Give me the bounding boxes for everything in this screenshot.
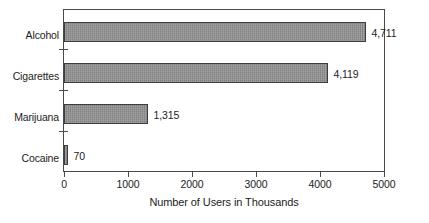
x-axis-tick: [320, 172, 321, 177]
x-axis-tick: [192, 172, 193, 177]
x-axis-tick: [256, 172, 257, 177]
bar-series: [64, 10, 384, 171]
value-label-marijuana: 1,315: [153, 110, 179, 121]
y-axis-label-marijuana: Marijuana: [0, 112, 59, 123]
value-label-cocaine: 70: [73, 151, 84, 162]
bar-alcohol: [64, 22, 366, 42]
bar-chart: Alcohol Cigarettes Marijuana Cocaine 4,7…: [0, 0, 429, 223]
y-axis-labels: Alcohol Cigarettes Marijuana Cocaine: [0, 9, 59, 172]
bar-marijuana: [64, 104, 148, 124]
y-axis-label-cigarettes: Cigarettes: [0, 71, 59, 82]
x-axis-tick-label-0: 0: [61, 178, 67, 190]
x-axis-ticks: [63, 172, 385, 177]
x-axis-tick-label-3000: 3000: [245, 178, 268, 190]
x-axis-tick: [128, 172, 129, 177]
y-axis-label-alcohol: Alcohol: [0, 30, 59, 41]
x-axis-tick-label-2000: 2000: [181, 178, 204, 190]
x-axis-title: Number of Users in Thousands: [63, 196, 385, 209]
x-axis-tick-label-5000: 5000: [373, 178, 396, 190]
value-label-cigarettes: 4,119: [333, 69, 358, 80]
value-label-alcohol: 4,711: [371, 28, 396, 39]
x-axis-tick: [64, 172, 65, 177]
x-axis-tick: [384, 172, 385, 177]
x-axis-tick-labels: 0 1000 2000 3000 4000 5000: [0, 178, 429, 192]
x-axis-tick-label-1000: 1000: [117, 178, 140, 190]
y-axis-label-cocaine: Cocaine: [0, 153, 59, 164]
bar-cocaine: [64, 145, 68, 165]
x-axis-tick-label-4000: 4000: [309, 178, 332, 190]
bar-cigarettes: [64, 63, 328, 83]
